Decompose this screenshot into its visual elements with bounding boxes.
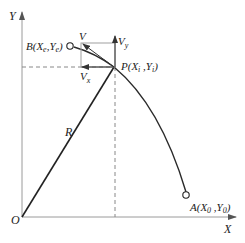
radius-line xyxy=(22,67,114,217)
circular-interpolation-diagram: Y X O R V Vy Vx B(Xe,Ye) P(Xi ,Yi) A(X0 … xyxy=(0,0,245,243)
vx-sub: x xyxy=(86,76,91,85)
point-b-label: B(Xe,Ye) xyxy=(26,40,63,54)
y-axis-label: Y xyxy=(9,9,17,23)
velocity-vy-label: Vy xyxy=(118,35,129,50)
origin-label: O xyxy=(11,213,20,227)
radius-label: R xyxy=(64,125,73,139)
velocity-v-arrow xyxy=(83,44,114,67)
velocity-v-label: V xyxy=(79,30,87,42)
point-p-label: P(Xi ,Yi) xyxy=(120,60,158,74)
velocity-vx-label: Vx xyxy=(80,70,91,85)
point-a-label: A(X0 ,Y0) xyxy=(189,201,231,215)
point-b-marker xyxy=(67,43,73,49)
x-axis-label: X xyxy=(223,222,232,236)
vy-sub: y xyxy=(124,41,129,50)
point-a-marker xyxy=(183,192,189,198)
